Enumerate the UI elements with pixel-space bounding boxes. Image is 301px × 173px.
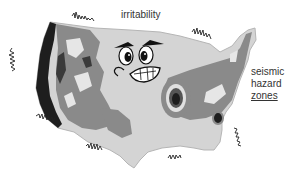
legend-line-1: seismic xyxy=(251,66,284,78)
irritability-label: irritability xyxy=(121,9,160,21)
legend-line-3: zones xyxy=(251,90,284,102)
hazard-zone-new-madrid-core xyxy=(172,93,180,105)
illustration: irritability seismic hazard zones xyxy=(0,0,301,173)
hazard-zone-charleston xyxy=(213,112,223,124)
seismic-hazard-zones-label: seismic hazard zones xyxy=(251,66,284,102)
legend-line-2: hazard xyxy=(251,78,284,90)
